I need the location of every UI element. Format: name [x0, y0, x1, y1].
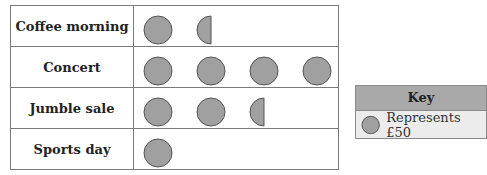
- pictogram-table: Coffee morningConcertJumble saleSports d…: [10, 5, 339, 170]
- row-label: Jumble sale: [11, 88, 134, 129]
- table-row: Jumble sale: [11, 88, 339, 129]
- half-circle-symbol-icon: [249, 97, 279, 127]
- circle-symbol-icon: [302, 56, 332, 86]
- circle-symbol-icon: [143, 138, 173, 168]
- symbol-cell: [134, 6, 339, 47]
- circle-symbol-icon: [249, 56, 279, 86]
- table-row: Sports day: [11, 129, 339, 170]
- key-row: Represents £50: [356, 111, 486, 138]
- symbol-cell: [134, 47, 339, 88]
- symbol-cell: [134, 129, 339, 170]
- key-title: Key: [356, 86, 486, 111]
- table-row: Concert: [11, 47, 339, 88]
- key-box: Key Represents £50: [355, 85, 487, 139]
- half-circle-symbol-icon: [196, 15, 226, 45]
- row-label: Concert: [11, 47, 134, 88]
- circle-symbol-icon: [196, 97, 226, 127]
- row-label: Coffee morning: [11, 6, 134, 47]
- symbol-cell: [134, 88, 339, 129]
- row-label: Sports day: [11, 129, 134, 170]
- key-text: Represents £50: [386, 110, 486, 140]
- circle-symbol-icon: [143, 56, 173, 86]
- circle-symbol-icon: [143, 15, 173, 45]
- table-row: Coffee morning: [11, 6, 339, 47]
- circle-symbol-icon: [143, 97, 173, 127]
- circle-symbol-icon: [361, 115, 380, 135]
- circle-symbol-icon: [196, 56, 226, 86]
